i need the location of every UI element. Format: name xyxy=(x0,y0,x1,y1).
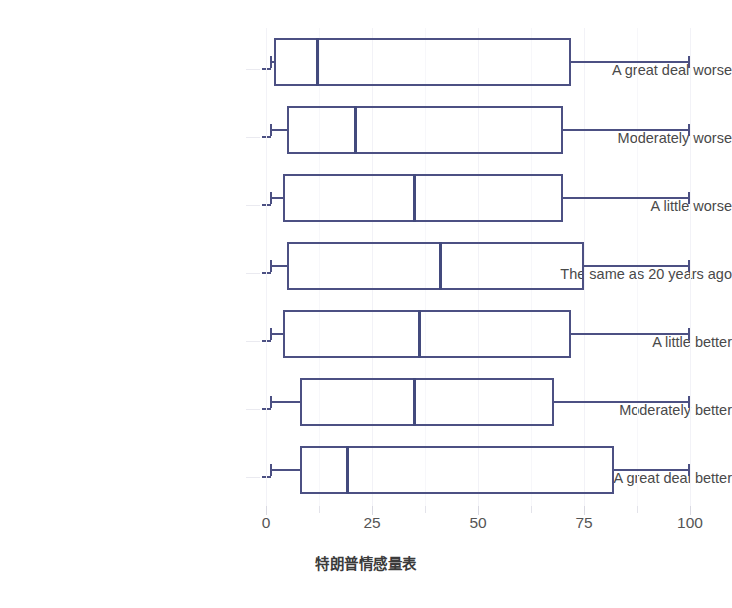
whisker-cap-high xyxy=(688,124,690,136)
gridline xyxy=(690,28,691,506)
boxplot-row xyxy=(266,436,690,504)
x-tick xyxy=(531,506,532,513)
median-line xyxy=(439,242,442,290)
whisker-right xyxy=(563,197,690,199)
median-line xyxy=(354,106,357,154)
box xyxy=(287,106,563,154)
boxplot-row xyxy=(266,28,690,96)
median-line xyxy=(316,38,319,86)
whisker-cap-low xyxy=(270,124,272,136)
category-leader-1 xyxy=(246,137,260,138)
x-tick-label: 0 xyxy=(262,514,271,532)
category-leader-0 xyxy=(246,69,260,70)
whisker-cap-high xyxy=(688,260,690,272)
whisker-left xyxy=(270,401,300,403)
boxplot-row xyxy=(266,96,690,164)
category-leader-2 xyxy=(246,205,260,206)
whisker-cap-low xyxy=(270,464,272,476)
whisker-cap-high xyxy=(688,396,690,408)
whisker-left xyxy=(270,265,287,267)
x-tick-label: 50 xyxy=(469,514,486,532)
x-tick xyxy=(425,506,426,513)
whisker-right xyxy=(584,265,690,267)
x-axis-title: 特朗普情感量表 xyxy=(0,552,732,573)
boxplot-row xyxy=(266,368,690,436)
category-leader-4 xyxy=(246,341,260,342)
x-tick xyxy=(637,506,638,513)
x-tick-label: 25 xyxy=(363,514,380,532)
box xyxy=(300,378,554,426)
boxplot-row xyxy=(266,232,690,300)
x-tick-label: 100 xyxy=(677,514,703,532)
whisker-cap-high xyxy=(688,328,690,340)
boxplot-row xyxy=(266,164,690,232)
whisker-cap-low xyxy=(270,328,272,340)
whisker-right xyxy=(563,129,690,131)
category-leader-3 xyxy=(246,273,260,274)
x-tick-label: 75 xyxy=(575,514,592,532)
whisker-cap-high xyxy=(688,464,690,476)
median-line xyxy=(418,310,421,358)
category-leader-5 xyxy=(246,409,260,410)
whisker-cap-low xyxy=(270,192,272,204)
median-line xyxy=(346,446,349,494)
whisker-cap-low xyxy=(270,56,272,68)
whisker-right xyxy=(614,469,690,471)
box xyxy=(283,310,571,358)
whisker-right xyxy=(554,401,690,403)
whisker-cap-high xyxy=(688,56,690,68)
x-tick xyxy=(319,506,320,513)
whisker-cap-low xyxy=(270,260,272,272)
category-leader-6 xyxy=(246,477,260,478)
boxplot-chart: A great deal worse Moderately worse A li… xyxy=(0,0,732,608)
median-line xyxy=(413,174,416,222)
box xyxy=(274,38,571,86)
whisker-right xyxy=(571,333,690,335)
whisker-left xyxy=(270,129,287,131)
plot-area xyxy=(266,28,690,506)
median-line xyxy=(413,378,416,426)
whisker-right xyxy=(571,61,690,63)
whisker-cap-high xyxy=(688,192,690,204)
box xyxy=(287,242,584,290)
box xyxy=(283,174,563,222)
whisker-cap-low xyxy=(270,396,272,408)
whisker-left xyxy=(270,469,300,471)
boxplot-row xyxy=(266,300,690,368)
